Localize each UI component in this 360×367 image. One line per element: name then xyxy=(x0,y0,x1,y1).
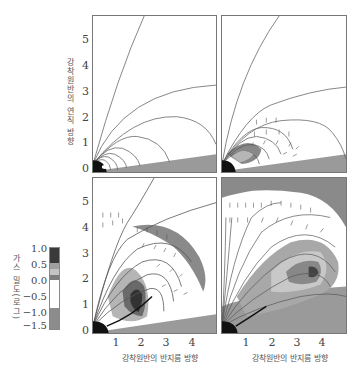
y-tick: 5 xyxy=(77,195,89,208)
x-tick: 1 xyxy=(110,336,122,349)
panel-top-left xyxy=(92,15,217,173)
y-tick: 0 xyxy=(77,162,89,175)
y-tick: 3 xyxy=(77,85,89,98)
panel-bottom-left xyxy=(92,177,217,334)
x-axis-label-right: 강착원반의 반지름 방향 xyxy=(230,352,350,363)
y-tick: 2 xyxy=(77,272,89,285)
x-tick: 4 xyxy=(316,336,328,349)
x-tick: 3 xyxy=(160,336,172,349)
panel-top-right xyxy=(221,15,347,173)
colorbar-segment xyxy=(50,280,59,308)
x-tick: 2 xyxy=(266,336,278,349)
y-tick: 2 xyxy=(77,111,89,124)
colorbar xyxy=(49,247,60,330)
field-lines-bottom-left xyxy=(93,178,216,333)
field-lines-bottom-right xyxy=(222,178,346,333)
x-tick: 2 xyxy=(135,336,147,349)
x-tick: 3 xyxy=(291,336,303,349)
y-tick: 5 xyxy=(77,33,89,46)
field-lines-top-left xyxy=(93,16,216,172)
colorbar-segment xyxy=(50,248,59,263)
colorbar-tick: −0.5 xyxy=(17,291,47,302)
colorbar-segment xyxy=(50,308,59,329)
y-tick: 1 xyxy=(77,298,89,311)
y-axis-label: 강착원반의 연직 방향 xyxy=(64,58,75,146)
panel-bottom-right xyxy=(221,177,347,334)
colorbar-tick: 1.0 xyxy=(17,243,47,254)
colorbar-tick: 0.0 xyxy=(17,275,47,286)
y-tick: 3 xyxy=(77,247,89,260)
y-tick: 4 xyxy=(77,59,89,72)
x-tick: 4 xyxy=(186,336,198,349)
y-tick: 0 xyxy=(77,324,89,337)
colorbar-tick: −1.5 xyxy=(17,320,47,331)
field-lines-top-right xyxy=(222,16,346,172)
y-tick: 4 xyxy=(77,221,89,234)
colorbar-tick: 0.5 xyxy=(17,259,47,270)
x-axis-label-left: 강착원반의 반지름 방향 xyxy=(100,352,220,363)
x-tick: 1 xyxy=(240,336,252,349)
y-tick: 1 xyxy=(77,136,89,149)
colorbar-tick: −1.0 xyxy=(17,307,47,318)
